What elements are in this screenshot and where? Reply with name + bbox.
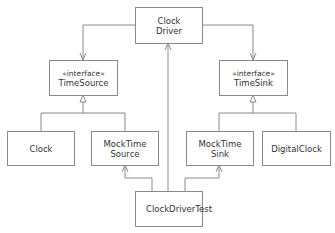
- stereotype-label: «interface»: [232, 69, 275, 78]
- hollow-triangle-icon: [80, 95, 86, 102]
- class-name-line: Sink: [211, 149, 229, 159]
- class-name-line: DigitalClock: [271, 144, 322, 154]
- class-name-line: Source: [110, 149, 139, 159]
- class-clock-driver-test: ClockDriverTest: [135, 191, 203, 227]
- edge-test-to-mock-sink: [185, 165, 219, 191]
- class-mock-time-source: MockTime Source: [91, 131, 159, 166]
- class-name-line: MockTime: [199, 139, 242, 149]
- class-clock: Clock: [7, 131, 75, 166]
- edge-driver-to-timesource: [83, 25, 135, 60]
- class-clock-driver: Clock Driver: [135, 7, 203, 44]
- edge-test-to-mock-source: [125, 165, 152, 191]
- class-name-line: ClockDriverTest: [146, 204, 212, 214]
- class-digital-clock: DigitalClock: [262, 131, 331, 166]
- class-name-line: MockTime: [104, 139, 147, 149]
- class-mock-time-sink: MockTime Sink: [186, 131, 254, 166]
- class-name-line: TimeSource: [59, 78, 109, 88]
- hollow-triangle-icon: [250, 95, 256, 102]
- interface-time-sink: «interface» TimeSink: [219, 60, 288, 96]
- class-name-line: TimeSink: [234, 78, 273, 88]
- class-name-line: Driver: [156, 26, 182, 36]
- edge-driver-to-timesink: [202, 25, 253, 60]
- class-name-line: Clock: [29, 144, 52, 154]
- stereotype-label: «interface»: [62, 69, 105, 78]
- edge-mock-sink-realizes-timesink: [219, 113, 296, 131]
- interface-time-source: «interface» TimeSource: [49, 60, 118, 96]
- class-name-line: Clock: [157, 16, 180, 26]
- edge-clock-realizes-timesource: [41, 113, 125, 131]
